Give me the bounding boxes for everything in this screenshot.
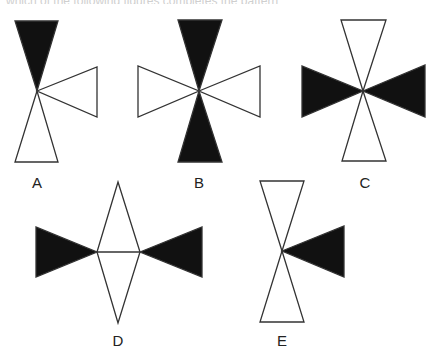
- figure-c-bottom-triangle-white: [342, 91, 386, 161]
- figure-a-right-triangle-white: [37, 67, 97, 117]
- figure-e-top-triangle-white: [260, 181, 304, 251]
- figure-a[interactable]: [15, 21, 97, 162]
- figure-c-left-triangle-black: [302, 66, 363, 117]
- figure-b[interactable]: [138, 20, 260, 162]
- figure-b-label: B: [194, 174, 204, 191]
- figure-b-left-triangle-white: [138, 66, 199, 117]
- figure-c[interactable]: [302, 20, 425, 161]
- figure-e-bottom-triangle-white: [260, 251, 304, 322]
- figure-d-right-triangle-black: [140, 227, 202, 277]
- figure-d-left-triangle-black: [36, 227, 97, 277]
- figure-e-label: E: [277, 332, 287, 349]
- figure-a-bottom-triangle-white: [15, 91, 58, 162]
- figure-e-right-triangle-black: [282, 226, 344, 277]
- figure-c-right-triangle-black: [363, 65, 425, 117]
- answer-options-diagram: A B C D E: [0, 0, 434, 358]
- figure-d[interactable]: [36, 182, 202, 323]
- figure-b-right-triangle-white: [199, 66, 260, 117]
- figure-c-top-triangle-white: [341, 20, 386, 91]
- figure-b-top-triangle-black: [178, 20, 222, 91]
- figure-d-label: D: [113, 332, 124, 349]
- figure-a-label: A: [32, 174, 42, 191]
- figure-e[interactable]: [260, 181, 344, 322]
- figure-b-bottom-triangle-black: [178, 91, 222, 162]
- figure-c-label: C: [360, 174, 371, 191]
- figure-a-top-triangle-black: [15, 21, 58, 91]
